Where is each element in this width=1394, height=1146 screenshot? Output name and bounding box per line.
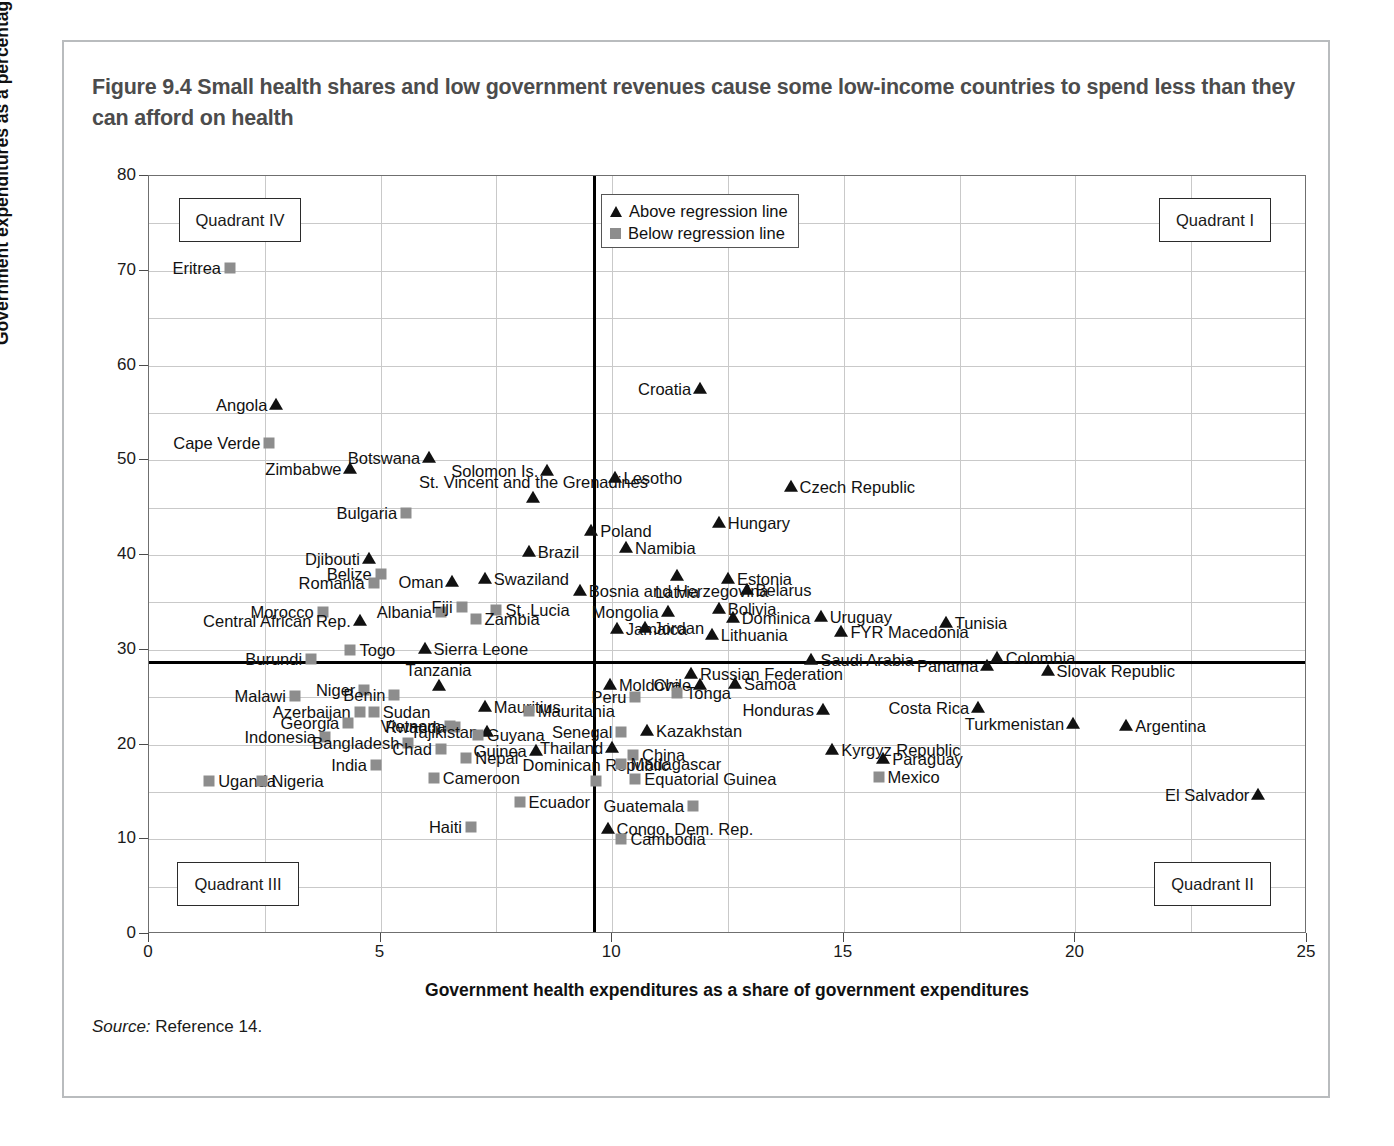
gridline-vertical: [1075, 176, 1076, 932]
y-axis-tick-label: 80: [76, 165, 136, 185]
data-point-label: Mexico: [888, 767, 940, 786]
data-point-marker: [601, 822, 615, 834]
data-point-label: Czech Republic: [800, 477, 916, 496]
page-title: Figure 9.4 Small health shares and low g…: [92, 72, 1322, 133]
data-point-marker: [432, 679, 446, 691]
y-axis-tick-label: 70: [76, 260, 136, 280]
data-point-marker: [401, 508, 412, 519]
x-axis-title: Government health expenditures as a shar…: [148, 980, 1306, 1001]
x-axis-tick-label: 10: [602, 942, 621, 962]
data-point-marker: [610, 622, 624, 634]
data-point-marker: [225, 262, 236, 273]
quadrant-label: Quadrant I: [1176, 211, 1254, 230]
data-point-label: Turkmenistan: [149, 714, 1064, 733]
x-axis-tick-label: 25: [1297, 942, 1316, 962]
data-point-marker: [784, 480, 798, 492]
data-point-label: Belarus: [756, 581, 812, 600]
data-point-label: FYR Macedonia: [850, 622, 968, 641]
y-axis-tick-mark: [139, 838, 148, 839]
quadrant-label: Quadrant III: [194, 875, 281, 894]
y-axis-tick-label: 0: [76, 923, 136, 943]
data-point-marker: [980, 659, 994, 671]
data-point-marker: [1251, 788, 1265, 800]
data-point-marker: [478, 571, 492, 583]
data-point-marker: [526, 491, 540, 503]
source-prefix: Source:: [92, 1017, 151, 1036]
data-point-label: Mongolia: [149, 602, 659, 621]
square-marker-icon: [610, 228, 621, 239]
gridline-horizontal: [149, 271, 1305, 272]
data-point-marker: [661, 605, 675, 617]
source-text: Reference 14.: [155, 1017, 262, 1036]
x-axis-tick-mark: [148, 933, 149, 942]
data-point-marker: [726, 610, 740, 622]
x-axis-tick-mark: [611, 933, 612, 942]
data-point-label: Latvia: [655, 582, 699, 601]
y-axis-title: Government expenditures as a percentage …: [0, 0, 13, 345]
data-point-marker: [362, 552, 376, 564]
gridline-horizontal: [149, 650, 1305, 651]
data-point-label: Slovak Republic: [1057, 661, 1175, 680]
data-point-marker: [971, 701, 985, 713]
scatter-plot: EritreaAngolaCape VerdeBotswanaZimbabweS…: [148, 175, 1306, 933]
y-axis-tick-mark: [139, 649, 148, 650]
data-point-marker: [740, 583, 754, 595]
x-axis-tick-mark: [380, 933, 381, 942]
data-point-marker: [876, 752, 890, 764]
data-point-label: Argentina: [1135, 716, 1206, 735]
gridline-horizontal-minor: [149, 413, 1305, 414]
data-point-label: Jordan: [654, 618, 704, 637]
data-point-marker: [873, 771, 884, 782]
legend: Above regression line Below regression l…: [601, 194, 799, 248]
data-point-marker: [445, 575, 459, 587]
y-axis-tick-mark: [139, 459, 148, 460]
data-point-marker: [428, 772, 439, 783]
data-point-marker: [269, 398, 283, 410]
data-point-label: Swaziland: [494, 569, 569, 588]
data-point-label: El Salvador: [149, 785, 1249, 804]
data-point-label: Haiti: [149, 817, 462, 836]
y-axis-tick-mark: [139, 270, 148, 271]
y-axis-tick-label: 10: [76, 828, 136, 848]
y-axis-tick-mark: [139, 175, 148, 176]
data-point-label: Eritrea: [149, 258, 221, 277]
data-point-marker: [672, 688, 683, 699]
data-point-marker: [670, 569, 684, 581]
y-axis-tick-mark: [139, 744, 148, 745]
y-axis-tick-label: 50: [76, 449, 136, 469]
data-point-marker: [1066, 716, 1080, 728]
gridline-horizontal-minor: [149, 318, 1305, 319]
data-point-marker: [630, 773, 641, 784]
data-point-label: Cambodia: [630, 830, 705, 849]
gridline-horizontal: [149, 839, 1305, 840]
y-axis-tick-label: 40: [76, 544, 136, 564]
y-axis-tick-mark: [139, 365, 148, 366]
data-point-marker: [616, 834, 627, 845]
data-point-marker: [1041, 663, 1055, 675]
gridline-vertical-minor: [960, 176, 961, 932]
data-point-marker: [584, 524, 598, 536]
y-axis-tick-label: 20: [76, 734, 136, 754]
quadrant-box-i: Quadrant I: [1159, 198, 1271, 242]
data-point-label: Hungary: [728, 513, 790, 532]
data-point-marker: [638, 621, 652, 633]
data-point-marker: [825, 743, 839, 755]
y-axis-tick-mark: [139, 933, 148, 934]
reference-line-vertical: [593, 176, 596, 932]
x-axis-tick-mark: [843, 933, 844, 942]
x-axis-tick-label: 20: [1065, 942, 1084, 962]
quadrant-box-ii: Quadrant II: [1154, 862, 1271, 906]
data-point-marker: [370, 760, 381, 771]
legend-label: Below regression line: [628, 224, 785, 243]
data-point-label: Croatia: [149, 380, 691, 399]
data-point-marker: [264, 438, 275, 449]
quadrant-box-iv: Quadrant IV: [179, 198, 301, 242]
legend-label: Above regression line: [629, 202, 788, 221]
y-axis-tick-mark: [139, 554, 148, 555]
data-point-marker: [1119, 718, 1133, 730]
data-point-marker: [522, 545, 536, 557]
data-point-marker: [616, 759, 627, 770]
gridline-vertical: [844, 176, 845, 932]
data-point-marker: [814, 609, 828, 621]
data-point-marker: [418, 642, 432, 654]
